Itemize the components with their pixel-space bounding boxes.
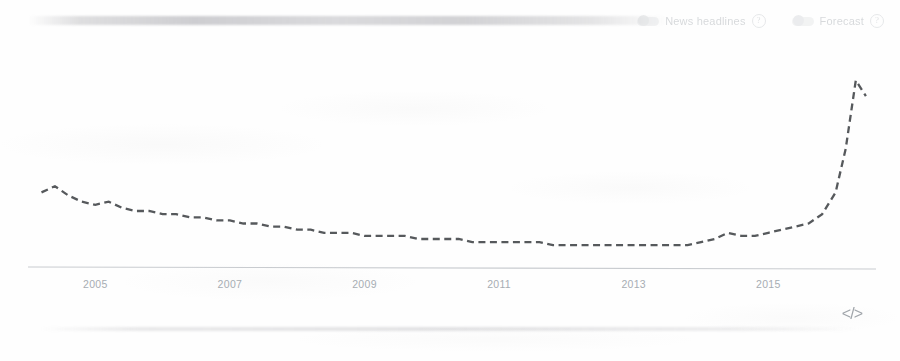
x-tick-label: 2015 [756,278,781,290]
x-axis-line [28,267,876,269]
help-icon[interactable]: ? [752,14,766,28]
news-headlines-toggle[interactable] [637,17,659,26]
help-icon[interactable]: ? [870,14,884,28]
interest-over-time-chart[interactable] [0,40,900,280]
embed-code-icon[interactable]: </> [842,305,862,323]
news-headlines-control[interactable]: News headlines ? [637,14,765,28]
x-tick-label: 2005 [83,278,108,290]
forecast-label: Forecast [820,15,864,27]
chart-options: News headlines ? Forecast ? [637,14,884,28]
x-tick-label: 2007 [218,278,243,290]
forecast-toggle[interactable] [792,17,814,26]
scan-artifact-band-bottom [40,327,860,331]
chart-svg [0,40,900,280]
x-tick-label: 2009 [352,278,377,290]
trends-chart-screenshot: News headlines ? Forecast ? 200520072009… [0,0,900,361]
x-axis-labels: 200520072009201120132015 [0,278,900,298]
news-headlines-label: News headlines [665,15,745,27]
x-tick-label: 2011 [487,278,511,290]
forecast-control[interactable]: Forecast ? [792,14,884,28]
scan-artifact-band-top [28,16,668,25]
trend-line [42,80,866,245]
x-tick-label: 2013 [621,278,646,290]
